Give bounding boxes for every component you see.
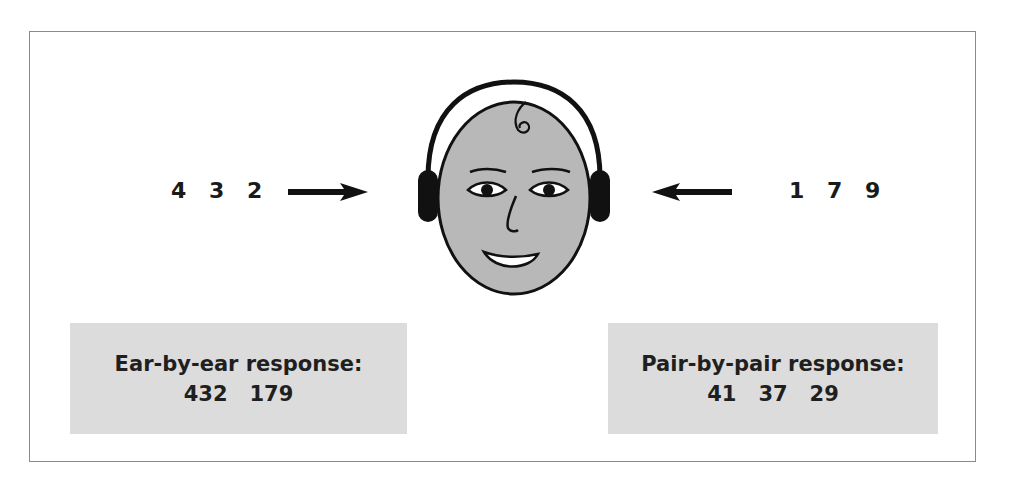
ear-by-ear-response-box: Ear-by-ear response: 432 179 [70, 323, 407, 434]
response-value: 37 [758, 379, 787, 409]
left-digit: 2 [247, 178, 285, 203]
pair-by-pair-values: 41 37 29 [707, 379, 839, 409]
face-with-headphones-icon [414, 78, 614, 303]
left-digit: 3 [209, 178, 247, 203]
right-digit: 7 [827, 178, 865, 203]
response-value: 41 [707, 379, 736, 409]
arrow-right-icon [288, 183, 368, 201]
right-digit: 1 [789, 178, 827, 203]
arrow-left-icon [652, 183, 732, 201]
right-ear-digits: 1 7 9 [789, 178, 903, 203]
ear-by-ear-title: Ear-by-ear response: [115, 349, 363, 379]
left-ear-digits: 4 3 2 [171, 178, 285, 203]
response-value: 179 [250, 379, 294, 409]
right-digit: 9 [865, 178, 903, 203]
ear-by-ear-values: 432 179 [184, 379, 294, 409]
pair-by-pair-title: Pair-by-pair response: [641, 349, 904, 379]
response-value: 432 [184, 379, 228, 409]
response-value: 29 [810, 379, 839, 409]
pair-by-pair-response-box: Pair-by-pair response: 41 37 29 [608, 323, 938, 434]
left-digit: 4 [171, 178, 209, 203]
